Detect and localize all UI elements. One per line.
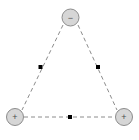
charge-bottom-right[interactable]: + (116, 109, 133, 126)
midpoint-right-marker (96, 65, 100, 69)
charge-bottom-left[interactable]: + (7, 109, 24, 126)
charge-top[interactable]: − (62, 9, 79, 26)
triangle-edges (22, 25, 117, 117)
midpoint-bottom-marker (68, 115, 72, 119)
charge-bottom-left-sign-label: + (12, 112, 17, 122)
figure-canvas: − + + (0, 0, 139, 140)
charge-top-sign-label: − (68, 13, 73, 23)
midpoint-markers (39, 65, 101, 119)
charge-triangle-diagram: − + + (0, 0, 139, 140)
charge-bottom-right-sign-label: + (121, 112, 126, 122)
midpoint-left-marker (39, 65, 43, 69)
